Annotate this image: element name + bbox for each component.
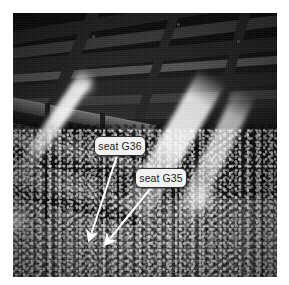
callout-seat-g36-label: seat G36 [98,141,141,152]
annotation-overlay: seat G36 seat G35 [0,0,289,285]
callout-seat-g35[interactable]: seat G35 [135,168,187,188]
leader-line-g36 [92,156,118,233]
callout-seat-g36[interactable]: seat G36 [94,136,146,156]
leader-line-g35 [110,188,151,239]
screenshot-root: seat G36 seat G35 [0,0,289,285]
callout-seat-g35-label: seat G35 [139,173,182,184]
